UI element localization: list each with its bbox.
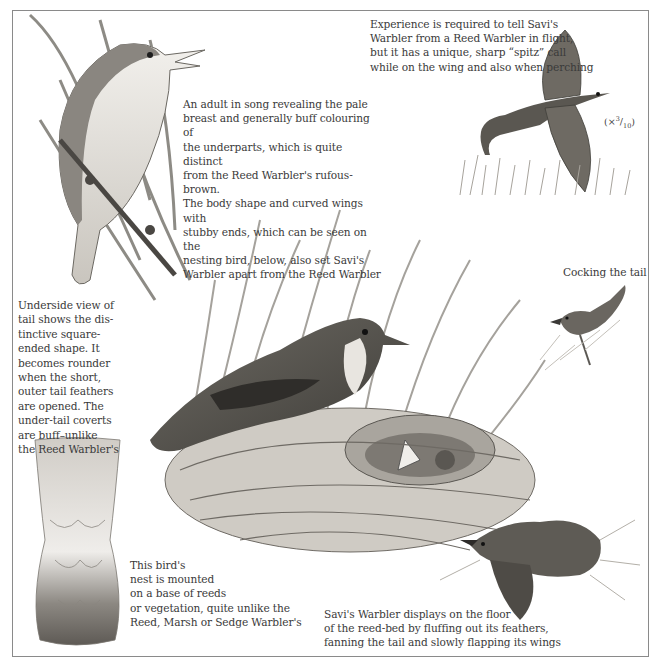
cocking-bird-illustration: [540, 285, 625, 370]
scale-label: (×3/10): [604, 115, 635, 130]
caption-adult-in-song: An adult in song revealing the pale brea…: [183, 97, 383, 282]
caption-tail-underside: Underside view of tail shows the dis- ti…: [18, 298, 138, 456]
scale-numerator: 3: [616, 115, 620, 123]
scale-prefix: (×: [604, 116, 616, 127]
caption-cocking-tail: Cocking the tail: [563, 265, 653, 279]
caption-flight: Experience is required to tell Savi's Wa…: [370, 17, 600, 74]
scale-suffix: ): [631, 116, 635, 127]
tail-underside-illustration: [35, 438, 120, 646]
caption-display: Savi's Warbler displays on the floor of …: [324, 607, 564, 650]
caption-nest: This bird's nest is mounted on a base of…: [130, 558, 330, 629]
